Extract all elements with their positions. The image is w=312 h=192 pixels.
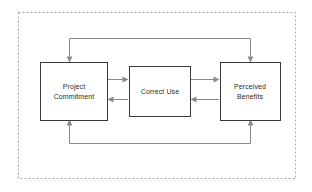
perceived-benefits-label-line-1: Perceived: [234, 83, 266, 90]
diagram-figure: Project Commitment Correct Use Perceived…: [0, 0, 312, 192]
use-to-commitment-arrowhead: [108, 97, 114, 103]
edge-use-to-commitment: [108, 97, 129, 103]
benefits-to-use-arrowhead: [191, 97, 197, 103]
top-feedback-loop-arrowhead-right: [248, 57, 254, 63]
edge-commitment-to-use: [108, 77, 129, 83]
edge-benefits-to-use: [191, 97, 220, 103]
project-commitment-label-line-1: Project: [63, 83, 86, 91]
bottom-feedback-loop-line: [70, 121, 251, 144]
node-correct-use[interactable]: Correct Use: [130, 67, 191, 117]
node-project-commitment[interactable]: Project Commitment: [41, 63, 108, 121]
edge-top-feedback-loop: [67, 39, 254, 63]
perceived-benefits-box[interactable]: [221, 63, 281, 121]
edge-bottom-feedback-loop: [67, 120, 254, 144]
use-to-benefits-arrowhead: [214, 77, 220, 83]
node-perceived-benefits[interactable]: Perceived Benefits: [221, 63, 281, 121]
project-commitment-box[interactable]: [41, 63, 108, 121]
top-feedback-loop-arrowhead-left: [67, 57, 73, 63]
project-commitment-label-line-2: Commitment: [54, 93, 95, 100]
diagram-canvas: Project Commitment Correct Use Perceived…: [0, 0, 312, 192]
commitment-to-use-arrowhead: [123, 77, 129, 83]
perceived-benefits-label-line-2: Benefits: [237, 93, 263, 100]
top-feedback-loop-line: [70, 39, 251, 62]
correct-use-label: Correct Use: [141, 88, 179, 95]
edge-use-to-benefits: [191, 77, 220, 83]
